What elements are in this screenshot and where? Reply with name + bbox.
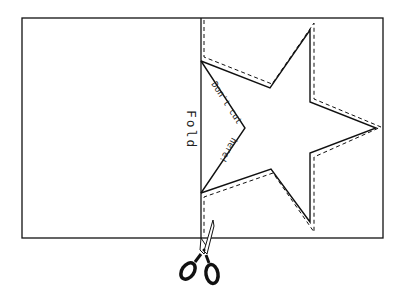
- star-cutting-diagram: Fold Don't cut here!: [0, 0, 404, 295]
- fold-label: Fold: [184, 110, 199, 149]
- paper-sheet: [22, 18, 383, 238]
